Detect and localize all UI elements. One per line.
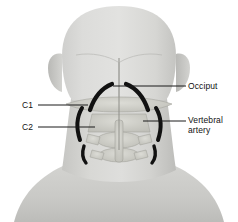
label-vertebral-artery: Vertebral artery — [188, 116, 223, 135]
illustration-canvas: Occiput Vertebral artery C1 C2 — [0, 0, 238, 222]
anatomy-figure — [0, 0, 238, 222]
label-c2: C2 — [22, 123, 33, 133]
label-occiput: Occiput — [188, 82, 218, 92]
label-c1: C1 — [22, 101, 33, 111]
